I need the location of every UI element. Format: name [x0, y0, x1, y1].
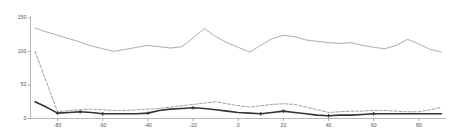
- x-tick-label: 0: [237, 122, 240, 128]
- x-tick-label: -40: [144, 122, 152, 128]
- x-tick-label: 40: [326, 122, 332, 128]
- x-tick-label: -80: [54, 122, 62, 128]
- x-tick-label: 60: [371, 122, 377, 128]
- series-line-middle-dashed: [35, 51, 441, 112]
- data-point-marker: [259, 112, 262, 115]
- chart-figure: 050100150 -80-60-40-20020406080: [0, 0, 453, 137]
- data-series-group: [35, 28, 441, 116]
- data-point-marker: [101, 112, 104, 115]
- x-tick-label: 20: [281, 122, 287, 128]
- x-tick-label: -60: [99, 122, 107, 128]
- data-point-marker: [282, 109, 285, 112]
- data-point-marker: [78, 110, 81, 113]
- data-point-marker: [146, 111, 149, 114]
- line-chart: 050100150 -80-60-40-20020406080: [0, 0, 453, 137]
- x-tick-label: 80: [416, 122, 422, 128]
- y-tick-label: 100: [18, 48, 27, 54]
- series-line-upper-thin-solid: [35, 28, 441, 52]
- data-point-marker: [372, 112, 375, 115]
- data-point-marker: [327, 114, 330, 117]
- y-tick-label: 0: [23, 115, 26, 121]
- axis-spines: [31, 16, 447, 119]
- y-tick-label: 150: [18, 14, 27, 20]
- x-tick-label: -20: [189, 122, 197, 128]
- x-axis-ticks: [58, 119, 419, 122]
- x-axis-tick-labels: -80-60-40-20020406080: [54, 122, 422, 128]
- y-axis-tick-labels: 050100150: [18, 14, 27, 121]
- data-point-marker: [191, 106, 194, 109]
- chart-canvas: 050100150 -80-60-40-20020406080: [0, 0, 453, 137]
- series-line-lower-thick-solid: [35, 102, 441, 116]
- y-tick-label: 50: [21, 81, 27, 87]
- data-point-markers: [56, 106, 376, 117]
- y-axis-ticks: [28, 18, 31, 119]
